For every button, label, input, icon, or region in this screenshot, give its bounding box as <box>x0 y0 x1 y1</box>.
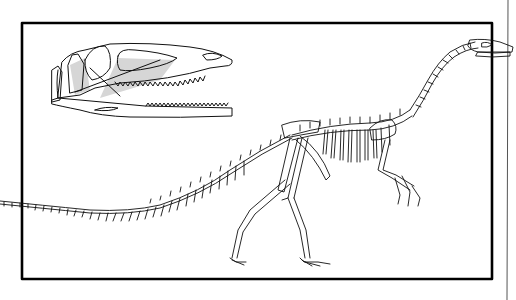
frame-border <box>22 23 492 279</box>
illustration-canvas <box>0 0 516 300</box>
skull-inset <box>52 43 232 117</box>
